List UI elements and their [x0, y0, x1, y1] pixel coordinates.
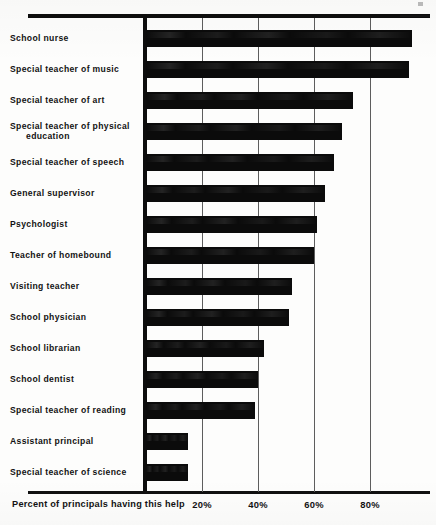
category-label: Psychologist: [10, 219, 140, 230]
bar: [146, 154, 334, 171]
category-label: School dentist: [10, 374, 140, 385]
bar: [146, 433, 188, 450]
category-label-line1: School dentist: [10, 374, 74, 384]
category-label-line1: General supervisor: [10, 188, 95, 198]
category-label: Special teacher of speech: [10, 157, 140, 168]
bar: [146, 30, 412, 47]
bar: [146, 340, 264, 357]
bar: [146, 92, 353, 109]
x-tick-label-80: 80%: [360, 499, 380, 510]
category-label: Teacher of homebound: [10, 250, 140, 261]
scan-artifact-speck: [418, 2, 423, 6]
category-label-line1: Special teacher of science: [10, 467, 127, 477]
category-label: Special teacher of reading: [10, 405, 140, 416]
category-label: Special teacher of science: [10, 467, 140, 478]
category-label: School physician: [10, 312, 140, 323]
category-label: Visiting teacher: [10, 281, 140, 292]
category-label: School nurse: [10, 33, 140, 44]
bar: [146, 123, 342, 140]
gridline-80: [370, 18, 371, 492]
category-label-line1: Visiting teacher: [10, 281, 79, 291]
category-label-line1: School nurse: [10, 33, 69, 43]
category-label-line1: School physician: [10, 312, 86, 322]
category-label-line1: Psychologist: [10, 219, 68, 229]
x-axis-title: Percent of principals having this help: [12, 499, 185, 509]
bar: [146, 216, 317, 233]
bar: [146, 309, 289, 326]
category-label-line1: Assistant principal: [10, 436, 94, 446]
category-label: General supervisor: [10, 188, 140, 199]
category-label-line1: Special teacher of reading: [10, 405, 126, 415]
x-tick-label-40: 40%: [248, 499, 268, 510]
category-label-line1: School librarian: [10, 343, 81, 353]
category-label-line1: Special teacher of speech: [10, 157, 124, 167]
category-label: Assistant principal: [10, 436, 140, 447]
bar: [146, 185, 325, 202]
x-tick-label-20: 20%: [192, 499, 212, 510]
category-label-line1: Special teacher of music: [10, 64, 119, 74]
bar: [146, 247, 314, 264]
bar: [146, 402, 255, 419]
x-tick-label-60: 60%: [304, 499, 324, 510]
category-label-line2: education: [10, 131, 140, 142]
bar: [146, 464, 188, 481]
category-label: Special teacher of art: [10, 95, 140, 106]
category-label: Special teacher of physicaleducation: [10, 121, 140, 142]
bar: [146, 371, 258, 388]
top-rule-taper: [400, 15, 430, 17]
category-label-line1: Special teacher of art: [10, 95, 105, 105]
category-label: Special teacher of music: [10, 64, 140, 75]
gridline-60: [314, 18, 315, 492]
bar: [146, 278, 292, 295]
category-label: School librarian: [10, 343, 140, 354]
bar: [146, 61, 409, 78]
category-label-line1: Teacher of homebound: [10, 250, 111, 260]
category-label-line1: Special teacher of physical: [10, 121, 130, 131]
bar-chart: School nurseSpecial teacher of musicSpec…: [0, 0, 436, 525]
